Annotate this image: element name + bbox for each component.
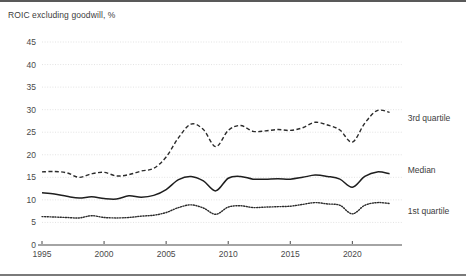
x-axis-tick-label: 2005 (157, 249, 176, 259)
series-inline-labels: 3rd quartileMedian1st quartile (408, 113, 451, 216)
chart-figure: ROIC excluding goodwill, % 0510152025303… (0, 0, 466, 276)
series-line-3rd-quartile (42, 110, 390, 177)
x-axis-tick-label: 1995 (33, 249, 52, 259)
y-axis-tick-label: 30 (27, 105, 37, 115)
x-axis (38, 241, 402, 245)
y-axis-tick-label: 15 (27, 172, 37, 182)
x-axis-tick-label: 2015 (281, 249, 300, 259)
gridlines-group (42, 42, 402, 222)
x-axis-tick-label: 2020 (343, 249, 362, 259)
series-label-1st-quartile: 1st quartile (408, 206, 450, 216)
y-axis-tick-labels: 051015202530354045 (27, 37, 37, 250)
series-line-median (42, 172, 390, 199)
chart-plot-area: 051015202530354045 199520002005201020152… (0, 2, 466, 276)
data-series-group (42, 110, 390, 218)
y-axis-tick-label: 45 (27, 37, 37, 47)
x-axis-tick-label: 2000 (95, 249, 114, 259)
series-label-3rd-quartile: 3rd quartile (408, 113, 451, 123)
x-axis-tick-labels: 199520002005201020152020 (33, 249, 363, 259)
series-label-median: Median (408, 165, 436, 175)
x-axis-tick-label: 2010 (219, 249, 238, 259)
y-axis-tick-label: 20 (27, 150, 37, 160)
y-axis-tick-label: 5 (31, 217, 36, 227)
series-line-1st-quartile (42, 203, 390, 218)
y-axis-tick-label: 25 (27, 127, 37, 137)
y-axis-tick-label: 40 (27, 60, 37, 70)
y-axis-tick-label: 10 (27, 195, 37, 205)
y-axis-tick-label: 35 (27, 82, 37, 92)
